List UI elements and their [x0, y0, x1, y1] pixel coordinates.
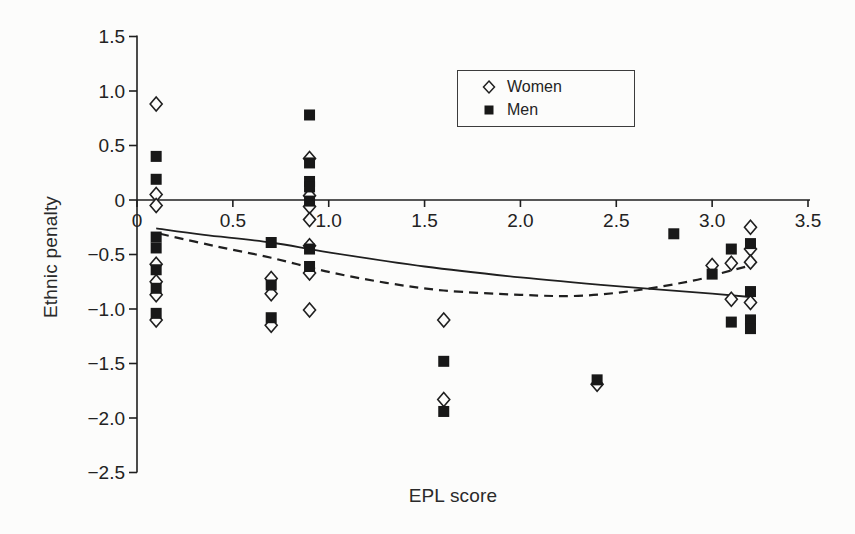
x-tick-label: 0	[132, 210, 143, 231]
data-point-men	[151, 174, 162, 185]
data-point-men	[438, 406, 449, 417]
y-tick-label: 1.5	[99, 26, 125, 47]
x-axis-title: EPL score	[409, 485, 498, 507]
data-point-men	[592, 374, 603, 385]
y-tick-label: −1.5	[87, 353, 125, 374]
data-point-women	[744, 220, 756, 234]
x-tick-label: 3.5	[795, 210, 821, 231]
x-tick-label: 0.5	[220, 210, 246, 231]
data-point-men	[304, 244, 315, 255]
chart-figure: 1.51.00.50−0.5−1.0−1.5−2.0−2.500.51.01.5…	[0, 0, 855, 534]
data-point-women	[304, 213, 316, 227]
data-point-men	[745, 323, 756, 334]
data-point-men	[707, 269, 718, 280]
legend-label-men: Men	[507, 101, 538, 119]
data-point-women	[150, 97, 162, 111]
data-point-men	[266, 237, 277, 248]
data-point-men	[304, 157, 315, 168]
x-tick-label: 2.5	[603, 210, 629, 231]
data-point-men	[304, 181, 315, 192]
data-point-women	[304, 303, 316, 317]
data-point-women	[438, 392, 450, 406]
data-point-men	[266, 280, 277, 291]
data-point-men	[151, 232, 162, 243]
data-point-women	[438, 313, 450, 327]
y-tick-label: −1.0	[87, 299, 125, 320]
legend: WomenMen	[457, 70, 635, 127]
data-point-men	[151, 151, 162, 162]
data-point-men	[304, 261, 315, 272]
data-point-men	[304, 196, 315, 207]
data-point-women	[725, 256, 737, 270]
legend-entry-women: Women	[481, 76, 634, 98]
y-tick-label: 1.0	[99, 81, 125, 102]
data-point-men	[726, 317, 737, 328]
x-tick-label: 3.0	[699, 210, 725, 231]
data-point-men	[745, 286, 756, 297]
data-point-women	[744, 295, 756, 309]
y-tick-label: 0	[114, 190, 125, 211]
filled-square-icon	[481, 102, 497, 118]
data-point-men	[745, 238, 756, 249]
legend-entry-men: Men	[481, 99, 634, 121]
y-tick-label: −0.5	[87, 244, 125, 265]
data-point-men	[668, 228, 679, 239]
data-point-men	[726, 244, 737, 255]
y-tick-label: −2.0	[87, 408, 125, 429]
open-diamond-icon	[481, 79, 497, 95]
data-point-men	[151, 242, 162, 253]
trend-line-solid	[156, 228, 750, 297]
y-tick-label: −2.5	[87, 462, 125, 483]
x-tick-label: 2.0	[507, 210, 533, 231]
legend-label-women: Women	[507, 78, 562, 96]
scatter-plot: 1.51.00.50−0.5−1.0−1.5−2.0−2.500.51.01.5…	[0, 0, 855, 534]
y-tick-label: 0.5	[99, 135, 125, 156]
x-tick-label: 1.0	[316, 210, 342, 231]
trend-line-dashed	[160, 234, 751, 296]
data-point-men	[151, 264, 162, 275]
data-point-men	[151, 308, 162, 319]
data-point-women	[744, 255, 756, 269]
data-point-men	[151, 283, 162, 294]
x-tick-label: 1.5	[411, 210, 437, 231]
data-point-men	[304, 109, 315, 120]
y-axis-title: Ethnic penalty	[40, 196, 62, 318]
data-point-men	[266, 312, 277, 323]
data-point-men	[438, 356, 449, 367]
